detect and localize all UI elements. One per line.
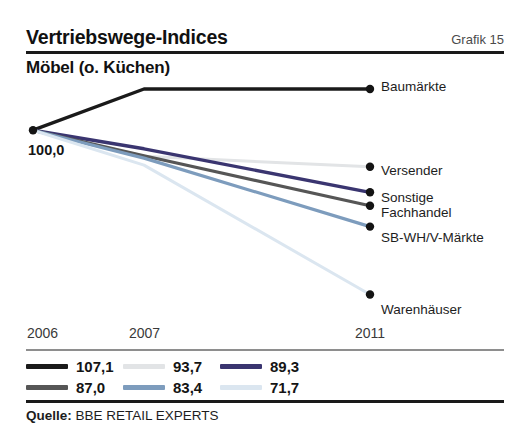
legend-top-divider [26,349,504,351]
series-endpoint-dot [366,188,374,196]
series-endpoint-dot [366,202,374,210]
legend-swatch-icon [220,364,262,369]
legend-row: 87,0 83,4 71,7 [26,377,504,398]
legend-value: 107,1 [76,358,114,375]
legend-item: 71,7 [220,379,316,396]
page-title: Vertriebswege-Indices [26,26,228,49]
series-label-sb-wh-v-maerkte: SB-WH/V-Märkte [381,231,484,245]
baseline-value-label: 100,0 [28,142,64,158]
legend-swatch-icon [220,385,262,390]
figure-number: Grafik 15 [451,32,504,47]
series-endpoint-dots [29,85,374,299]
x-axis-tick-2011: 2011 [355,325,385,341]
legend-swatch-icon [123,364,165,369]
legend-value: 89,3 [270,358,299,375]
chart-subtitle: Möbel (o. Küchen) [26,58,170,78]
legend-swatch-icon [123,385,165,390]
legend: 107,1 93,7 89,3 87,0 83,4 71,7 [26,356,504,398]
legend-value: 83,4 [173,379,202,396]
header-divider [26,51,504,54]
chart-page: Vertriebswege-Indices Grafik 15 Möbel (o… [0,0,529,445]
series-label-warenhaeuser: Warenhäuser [381,303,462,317]
legend-item: 107,1 [26,358,122,375]
source-label: Quelle: [26,408,72,423]
series-line [33,130,370,226]
series-line [33,130,370,192]
series-label-fachhandel: Fachhandel [381,206,452,220]
legend-row: 107,1 93,7 89,3 [26,356,504,377]
series-endpoint-dot [366,163,374,171]
legend-item: 89,3 [220,358,316,375]
chart-header: Vertriebswege-Indices Grafik 15 [26,26,504,49]
series-line [33,130,370,294]
x-axis-tick-2006: 2006 [27,325,58,341]
series-line [33,130,370,167]
series-label-sonstige: Sonstige [381,191,434,205]
series-label-baumaerkte: Baumärkte [381,80,446,94]
series-label-versender: Versender [381,164,443,178]
series-endpoint-dot [29,126,37,134]
source-note: Quelle: BBE RETAIL EXPERTS [26,408,219,423]
legend-value: 71,7 [270,379,299,396]
legend-item: 83,4 [123,379,219,396]
source-text: BBE RETAIL EXPERTS [76,408,219,423]
legend-item: 87,0 [26,379,122,396]
series-endpoint-dot [366,85,374,93]
x-axis-tick-2007: 2007 [129,325,160,341]
legend-swatch-icon [26,364,68,369]
series-line [33,89,370,130]
series-endpoint-dot [366,290,374,298]
legend-bottom-divider [26,400,504,403]
series-lines [33,89,370,295]
legend-value: 93,7 [173,358,202,375]
legend-item: 93,7 [123,358,219,375]
legend-value: 87,0 [76,379,105,396]
series-endpoint-dot [366,222,374,230]
legend-swatch-icon [26,385,68,390]
series-line [33,130,370,206]
